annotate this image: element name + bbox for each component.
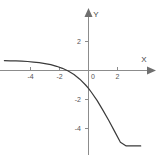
function-plot: -4 -2 0 2 2 -2 -4 X Y [0,0,162,155]
plot-canvas: -4 -2 0 2 2 -2 -4 X Y [0,0,162,155]
x-tick-label-2: 2 [116,73,120,80]
curve-path [4,61,140,146]
y-tick-label--2: -2 [75,96,81,103]
x-tick-label--2: -2 [56,73,62,80]
x-tick-label--4: -4 [27,73,33,80]
x-axis-arrow-icon [147,67,156,75]
x-axis-label: X [141,55,147,64]
y-axis-label: Y [93,10,99,19]
x-tick-label-0: 0 [91,73,95,80]
y-tick-label-2: 2 [77,38,81,45]
y-axis-arrow-icon [85,8,93,17]
y-tick-label--4: -4 [75,125,81,132]
